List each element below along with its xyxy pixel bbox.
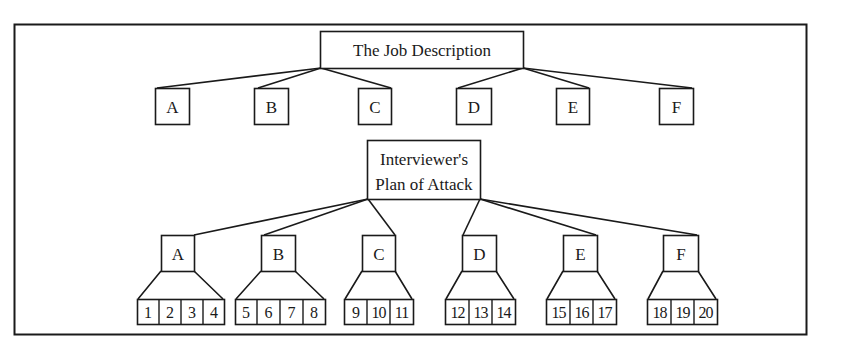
plan-branch-c: C 9 10 11	[345, 236, 414, 326]
job-description-node: The Job Description	[321, 32, 524, 69]
plan-of-attack-node: Interviewer's Plan of Attack	[368, 141, 481, 200]
detail-row: 1 2 3 4	[138, 299, 225, 325]
plan-branch-d: D 12 13 14	[446, 236, 516, 326]
job-description-connectors	[157, 68, 692, 88]
plan-node-label: F	[676, 245, 685, 264]
detail-item: 17	[598, 304, 613, 321]
job-node-label: E	[568, 98, 578, 117]
detail-item: 15	[552, 304, 567, 321]
detail-item: 2	[166, 304, 174, 321]
detail-item: 9	[352, 304, 360, 321]
detail-item: 18	[653, 304, 668, 321]
detail-item: 3	[188, 304, 196, 321]
detail-item: 19	[676, 304, 691, 321]
job-node-d: D	[457, 89, 492, 125]
detail-item: 4	[210, 304, 218, 321]
detail-row: 15 16 17	[547, 299, 617, 325]
detail-item: 14	[497, 304, 512, 321]
job-node-label: D	[468, 98, 480, 117]
detail-row: 5 6 7 8	[236, 299, 326, 325]
job-node-a: A	[156, 89, 190, 125]
detail-item: 1	[144, 304, 152, 321]
detail-item: 13	[474, 304, 489, 321]
plan-connectors	[194, 199, 697, 235]
detail-item: 8	[310, 304, 318, 321]
plan-node-label: A	[172, 245, 185, 264]
job-node-b: B	[255, 89, 289, 125]
plan-node-label: E	[575, 245, 585, 264]
detail-item: 5	[242, 304, 250, 321]
plan-branch-a: A 1 2 3 4	[138, 236, 225, 326]
job-description-children: A B C D E F	[156, 89, 694, 125]
plan-branch-b: B 5 6 7 8	[236, 236, 326, 326]
job-description-label: The Job Description	[353, 41, 491, 60]
job-node-label: B	[266, 98, 277, 117]
detail-item: 16	[575, 304, 590, 321]
detail-item: 11	[395, 304, 409, 321]
detail-item: 10	[372, 304, 387, 321]
detail-item: 7	[288, 304, 296, 321]
detail-row: 9 10 11	[345, 299, 414, 325]
detail-item: 6	[265, 304, 273, 321]
plan-of-attack-label-line1: Interviewer's	[380, 150, 468, 169]
plan-node-label: B	[273, 245, 284, 264]
detail-item: 20	[699, 304, 714, 321]
detail-row: 18 19 20	[648, 299, 718, 325]
plan-node-label: D	[473, 245, 485, 264]
plan-branch-e: E 15 16 17	[547, 236, 617, 326]
detail-item: 12	[451, 304, 466, 321]
plan-branch-f: F 18 19 20	[648, 236, 718, 326]
job-node-e: E	[557, 89, 590, 125]
job-node-label: A	[166, 98, 179, 117]
job-node-c: C	[359, 89, 392, 125]
detail-row: 12 13 14	[446, 299, 516, 325]
job-node-f: F	[660, 89, 694, 125]
hierarchy-diagram: The Job Description A B C D E F	[0, 0, 847, 345]
plan-of-attack-label-line2: Plan of Attack	[375, 175, 473, 194]
job-node-label: F	[672, 98, 681, 117]
plan-node-label: C	[373, 245, 384, 264]
job-node-label: C	[369, 98, 380, 117]
